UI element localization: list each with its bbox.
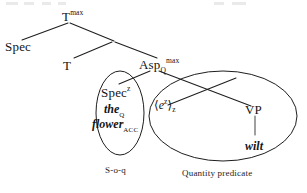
node-vp-label: VP	[245, 102, 262, 117]
caption-quantity-predicate: Quantity predicate	[182, 168, 252, 178]
movement-line-from-trace	[168, 78, 236, 105]
lexical-noun: flowerACC	[92, 115, 138, 134]
lexical-verb-word: wilt	[245, 139, 263, 153]
node-t-head: T	[63, 57, 71, 73]
node-t-head-label: T	[63, 58, 71, 73]
branch-tbar-to-t	[74, 42, 112, 58]
node-t-max-superscript: max	[70, 8, 83, 17]
node-t-max: Tmax	[62, 8, 83, 24]
node-vp: VP	[245, 101, 262, 117]
lexical-noun-subscript: ACC	[123, 126, 138, 134]
node-trace: ⟨ez⟩z	[154, 98, 176, 114]
node-spec-inner-superscript: z	[127, 84, 130, 93]
node-spec-top-label: Spec	[5, 39, 31, 54]
node-asp-q-max: AspQmax	[139, 56, 179, 75]
node-t-max-label: T	[62, 9, 70, 24]
caption-s-o-q-text: S-o-q	[105, 165, 126, 175]
tree-branches-and-ellipses	[0, 0, 307, 193]
node-spec-inner: Specz	[101, 84, 131, 100]
lexical-noun-word: flower	[92, 117, 123, 131]
syntax-tree-figure: Tmax Spec T AspQmax Specz theQ flowerACC…	[0, 0, 307, 193]
node-asp-q-max-label: Asp	[139, 57, 161, 72]
lexical-verb: wilt	[245, 137, 263, 153]
caption-s-o-q: S-o-q	[105, 165, 126, 175]
ellipse-quantity-predicate	[149, 71, 297, 161]
lexical-determiner-word: the	[104, 102, 119, 116]
node-asp-q-max-subscript: Q	[161, 66, 167, 75]
node-spec-inner-label: Spec	[101, 85, 127, 100]
branch-tmax-to-tbar	[70, 23, 114, 41]
node-spec-top: Spec	[5, 38, 31, 54]
trace-subscript: z	[172, 105, 175, 114]
node-asp-q-max-superscript: max	[166, 56, 179, 65]
caption-quantity-predicate-text: Quantity predicate	[182, 168, 252, 178]
